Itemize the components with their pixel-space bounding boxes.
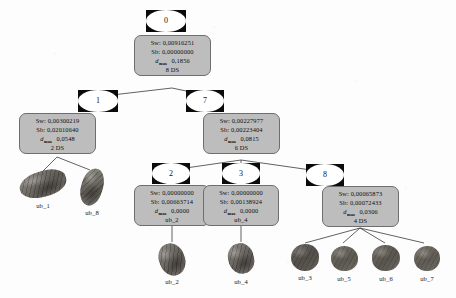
leaf-caption: ub_8 [70,209,114,216]
specimen-photo-icon [154,239,190,279]
leaf-caption: ub_7 [407,275,447,282]
stat-dmax-1: dmax 0,0548 [23,134,92,143]
leaf-caption: ub_6 [366,275,406,282]
leaf-ub-3[interactable]: ub_3 [285,244,325,281]
specimen-photo-icon [372,245,400,271]
dmax-value-1: 0,0548 [56,134,74,143]
dmax-subscript: max [44,139,52,145]
dmax-symbol: d [343,207,346,216]
dmax-subscript: max [347,212,355,218]
stat-dmax-8: dmax 0,0306 [326,207,395,216]
leaf-caption: ub_3 [285,274,325,281]
stat-footer-7: 6 DS [207,143,276,152]
stat-box-1[interactable]: Sw: 0,00300219 Sb: 0,02010640 dmax 0,054… [19,113,96,154]
leaf-caption: ub_4 [219,278,263,285]
specimen-photo-icon [414,246,440,271]
node-id-2-label: 2 [152,163,190,184]
dmax-subscript: max [159,61,167,67]
node-id-1[interactable]: 1 [78,90,118,112]
specimen-photo-icon [291,244,319,271]
dendrogram-diagram: 0 Sw: 0,00916251 Sb: 0,00000000 dmax 0,1… [0,0,456,298]
specimen-photo-icon [16,165,69,203]
dmax-symbol: d [40,134,43,143]
stat-sb-3: Sb: 0,00138924 [207,197,275,206]
node-id-8[interactable]: 8 [306,164,344,186]
node-id-7[interactable]: 7 [186,90,224,112]
node-id-3-label: 3 [222,163,260,184]
stat-footer-3: ub_4 [207,215,275,224]
dmax-value-0: 0,1856 [171,56,189,65]
dmax-symbol: d [155,56,158,65]
leaf-ub-4[interactable]: ub_4 [219,243,263,285]
edge-8-to-ub6 [360,228,385,243]
leaf-ub-1[interactable]: ub_1 [14,171,72,209]
dmax-symbol: d [155,206,158,215]
leaf-caption: ub_5 [324,275,364,282]
leaf-caption: ub_2 [150,278,194,285]
dmax-subscript: max [159,211,167,217]
leaf-ub-7[interactable]: ub_7 [407,246,447,282]
stat-box-3[interactable]: Sw: 0,00000000 Sb: 0,00138924 dmax 0,000… [203,185,279,226]
leaf-ub-5[interactable]: ub_5 [324,246,364,282]
stat-sb-7: Sb: 0,00223404 [207,125,276,134]
stat-sw-1: Sw: 0,00300219 [23,116,92,125]
leaf-ub-8[interactable]: ub_8 [70,168,114,216]
stat-footer-1: 2 DS [23,143,92,152]
specimen-photo-icon [331,246,358,271]
stat-sb-0: Sb: 0,00000000 [138,47,207,56]
leaf-ub-2[interactable]: ub_2 [150,243,194,285]
dmax-value-8: 0,0306 [359,207,377,216]
dmax-value-2: 0,0000 [171,206,189,215]
stat-box-8[interactable]: Sw: 0,00065873 Sb: 0,00072433 dmax 0,030… [322,186,399,227]
dmax-symbol: d [224,134,227,143]
stat-sw-8: Sw: 0,00065873 [326,189,395,198]
stat-sw-2: Sw: 0,00000000 [138,188,206,197]
specimen-photo-icon [225,240,258,276]
stat-sw-3: Sw: 0,00000000 [207,188,275,197]
dmax-symbol: d [224,206,227,215]
node-id-0-label: 0 [146,10,186,32]
stat-sw-7: Sw: 0,00227977 [207,116,276,125]
stat-box-7[interactable]: Sw: 0,00227977 Sb: 0,00223404 dmax 0,081… [203,113,280,154]
stat-sb-8: Sb: 0,00072433 [326,198,395,207]
node-id-7-label: 7 [186,90,224,112]
stat-sb-1: Sb: 0,02010640 [23,125,92,134]
specimen-photo-icon [76,166,109,209]
stat-footer-0: 8 DS [138,65,207,74]
node-id-0[interactable]: 0 [146,10,186,32]
node-id-1-label: 1 [78,90,118,112]
stat-dmax-3: dmax 0,0000 [207,206,275,215]
stat-dmax-2: dmax 0,0000 [138,206,206,215]
stat-footer-8: 4 DS [326,216,395,225]
stat-sb-2: Sb: 0,00663714 [138,197,206,206]
stat-box-0[interactable]: Sw: 0,00916251 Sb: 0,00000000 dmax 0,185… [134,35,211,76]
leaf-ub-6[interactable]: ub_6 [366,245,406,282]
edge-root-to-1 [112,88,172,95]
dmax-value-3: 0,0000 [240,206,258,215]
stat-box-2[interactable]: Sw: 0,00000000 Sb: 0,00663714 dmax 0,000… [134,185,210,226]
stat-dmax-0: dmax 0,1856 [138,56,207,65]
dmax-value-7: 0,0815 [240,134,258,143]
node-id-8-label: 8 [306,164,344,186]
edge-8-to-ub7 [360,228,424,243]
stat-footer-2: ub_2 [138,215,206,224]
dmax-subscript: max [228,211,236,217]
dmax-subscript: max [228,139,236,145]
stat-sw-0: Sw: 0,00916251 [138,38,207,47]
stat-dmax-7: dmax 0,0815 [207,134,276,143]
node-id-3[interactable]: 3 [222,163,260,184]
node-id-2[interactable]: 2 [152,163,190,184]
